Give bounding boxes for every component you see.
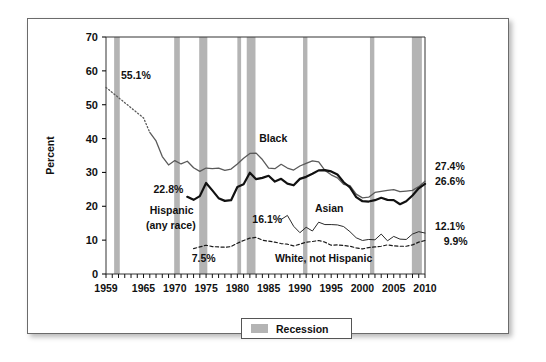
x-axis-tick-label: 2000 (351, 282, 375, 294)
x-axis-tick-label: 1990 (288, 282, 312, 294)
annotation-white-series: White, not Hispanic (275, 252, 373, 264)
annotation-black-start: 55.1% (121, 69, 151, 81)
annotation-hispanic-series-line1: Hispanic (150, 204, 194, 216)
recession-band (114, 37, 120, 274)
y-axis-tick-label: 40 (86, 133, 98, 145)
annotation-hispanic-series-line2: (any race) (146, 219, 196, 231)
series-line-asian (281, 215, 425, 240)
x-axis-tick-label: 2005 (382, 282, 406, 294)
y-axis-tick-label: 20 (86, 200, 98, 212)
x-axis-tick-label: 1980 (226, 282, 250, 294)
recession-swatch-icon (251, 324, 268, 333)
x-axis-tick-label: 1985 (257, 282, 281, 294)
annotation-hispanic-end: 26.6% (435, 175, 465, 187)
chart-legend: Recession (241, 318, 352, 339)
annotation-black-end: 27.4% (435, 160, 465, 172)
series-line-black (150, 132, 425, 197)
annotation-asian-start: 16.1% (252, 213, 282, 225)
annotation-asian-end: 12.1% (435, 220, 465, 232)
x-axis-tick-label: 1965 (132, 282, 156, 294)
x-axis-tick-label: 1975 (194, 282, 218, 294)
recession-band (237, 37, 241, 274)
recession-band (174, 37, 180, 274)
annotation-hispanic-start: 22.8% (154, 183, 184, 195)
y-axis-tick-label: 30 (86, 166, 98, 178)
annotation-black-series: Black (259, 132, 287, 144)
series-line-black-dotted (106, 87, 150, 132)
annotation-white-end: 9.9% (444, 235, 469, 247)
y-axis-tick-label: 70 (86, 31, 98, 43)
x-axis-tick-label: 1959 (94, 282, 118, 294)
recession-band (303, 37, 307, 274)
y-axis-tick-label: 0 (92, 268, 98, 280)
recession-band (199, 37, 207, 274)
legend-item-recession-label: Recession (276, 323, 329, 335)
y-axis-title: Percent (44, 136, 56, 175)
recession-band (412, 37, 422, 274)
poverty-rate-line-chart: 0102030405060701959196519701975198019851… (28, 19, 508, 333)
y-axis-tick-label: 10 (86, 234, 98, 246)
x-axis-tick-label: 2010 (413, 282, 437, 294)
x-axis-tick-label: 1995 (319, 282, 343, 294)
x-axis-tick-label: 1970 (163, 282, 187, 294)
y-axis-tick-label: 50 (86, 99, 98, 111)
chart-figure-frame: 0102030405060701959196519701975198019851… (27, 18, 509, 334)
annotation-asian-series: Asian (315, 202, 344, 214)
y-axis-tick-label: 60 (86, 65, 98, 77)
recession-band (370, 37, 374, 274)
annotation-white-start: 7.5% (192, 252, 217, 264)
